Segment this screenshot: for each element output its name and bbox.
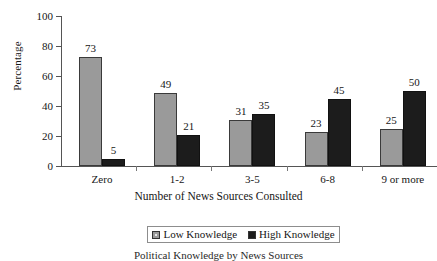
y-tick bbox=[56, 46, 61, 47]
x-tick-label: 3-5 bbox=[245, 174, 260, 185]
x-tick-label: Zero bbox=[92, 174, 113, 185]
y-tick bbox=[56, 106, 61, 107]
x-tick bbox=[136, 166, 137, 171]
bar-high-knowledge bbox=[328, 99, 351, 167]
bar-high-knowledge bbox=[403, 91, 426, 166]
x-axis-line bbox=[61, 166, 437, 167]
bar-value-label: 21 bbox=[169, 121, 208, 132]
bar-high-knowledge bbox=[102, 159, 125, 167]
chart-legend: Low Knowledge High Knowledge bbox=[147, 226, 340, 243]
plot-area: 020406080100 7354921313523452550 Zero1-2… bbox=[61, 16, 437, 166]
bar-group: 735 bbox=[79, 16, 125, 166]
y-tick-label: 20 bbox=[42, 131, 53, 142]
bar-low-knowledge bbox=[229, 120, 252, 167]
x-axis-title: Number of News Sources Consulted bbox=[0, 190, 437, 202]
y-tick-label: 80 bbox=[42, 41, 53, 52]
x-tick bbox=[362, 166, 363, 171]
bar-high-knowledge bbox=[252, 114, 275, 167]
figure-caption: Political Knowledge by News Sources bbox=[0, 249, 437, 261]
y-tick bbox=[56, 16, 61, 17]
x-tick bbox=[211, 166, 212, 171]
bar-value-label: 50 bbox=[395, 77, 434, 88]
bar-value-label: 35 bbox=[244, 100, 283, 111]
legend-item-low-knowledge: Low Knowledge bbox=[152, 229, 237, 240]
bar-group: 4921 bbox=[154, 16, 200, 166]
y-tick bbox=[56, 76, 61, 77]
y-tick-label: 40 bbox=[42, 101, 53, 112]
y-axis-line bbox=[61, 16, 62, 167]
bar-group: 2550 bbox=[380, 16, 426, 166]
y-tick bbox=[56, 136, 61, 137]
bar-value-label: 73 bbox=[71, 43, 110, 54]
bar-low-knowledge bbox=[305, 132, 328, 167]
x-tick-label: 1-2 bbox=[170, 174, 185, 185]
y-tick-label: 60 bbox=[42, 71, 53, 82]
x-tick bbox=[287, 166, 288, 171]
y-tick-label: 0 bbox=[48, 161, 54, 172]
bar-group: 2345 bbox=[305, 16, 351, 166]
legend-item-high-knowledge: High Knowledge bbox=[248, 229, 334, 240]
y-tick bbox=[56, 166, 61, 167]
y-axis-title: Percentage bbox=[11, 11, 23, 121]
bar-group: 3135 bbox=[229, 16, 275, 166]
bar-value-label: 45 bbox=[320, 85, 359, 96]
legend-swatch-low-knowledge bbox=[152, 231, 160, 239]
bar-value-label: 49 bbox=[146, 79, 185, 90]
bar-low-knowledge bbox=[380, 129, 403, 167]
x-tick-label: 9 or more bbox=[381, 174, 424, 185]
bar-value-label: 5 bbox=[94, 145, 133, 156]
legend-label-high-knowledge: High Knowledge bbox=[259, 229, 334, 240]
legend-swatch-high-knowledge bbox=[248, 231, 256, 239]
legend-label-low-knowledge: Low Knowledge bbox=[163, 229, 237, 240]
x-tick-label: 6-8 bbox=[320, 174, 335, 185]
bar-high-knowledge bbox=[177, 135, 200, 167]
y-tick-label: 100 bbox=[37, 11, 54, 22]
